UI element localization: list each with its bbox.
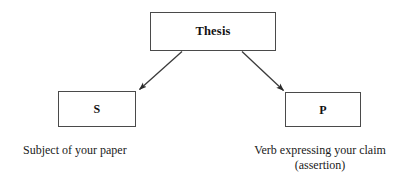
caption-predicate: Verb expressing your claim (assertion) bbox=[232, 143, 408, 173]
node-subject-label: S bbox=[94, 103, 101, 115]
thesis-diagram: Thesis S P Subject of your paper Verb ex… bbox=[0, 0, 415, 184]
node-subject: S bbox=[58, 91, 136, 127]
node-thesis-label: Thesis bbox=[195, 25, 230, 38]
edge-thesis-to-subject bbox=[140, 52, 183, 90]
edge-thesis-to-predicate bbox=[242, 52, 284, 91]
node-predicate: P bbox=[285, 92, 361, 127]
node-predicate-label: P bbox=[319, 104, 327, 116]
node-thesis: Thesis bbox=[150, 12, 276, 51]
caption-subject: Subject of your paper bbox=[23, 143, 193, 158]
